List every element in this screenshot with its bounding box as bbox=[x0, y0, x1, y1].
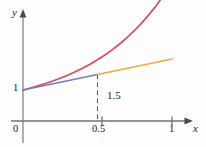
x-tick-label-0.5: 0.5 bbox=[92, 124, 105, 135]
y-axis-label: y bbox=[12, 7, 17, 18]
x-axis-label: x bbox=[193, 123, 198, 134]
x-tick-label-1: 1 bbox=[169, 124, 174, 135]
x-axis-arrowhead bbox=[185, 118, 194, 125]
origin-label: 0 bbox=[13, 124, 18, 135]
y-axis bbox=[20, 9, 27, 143]
annotation-1-5: 1.5 bbox=[107, 90, 121, 101]
y-tick-label-1: 1 bbox=[13, 83, 18, 94]
axis-ticks bbox=[19, 90, 173, 126]
math-figure: y x 0 1 0.5 1 1.5 bbox=[0, 0, 206, 147]
segment-blue-tangent bbox=[23, 75, 98, 91]
segment-orange-extension bbox=[98, 59, 173, 75]
y-axis-arrowhead bbox=[20, 9, 27, 18]
